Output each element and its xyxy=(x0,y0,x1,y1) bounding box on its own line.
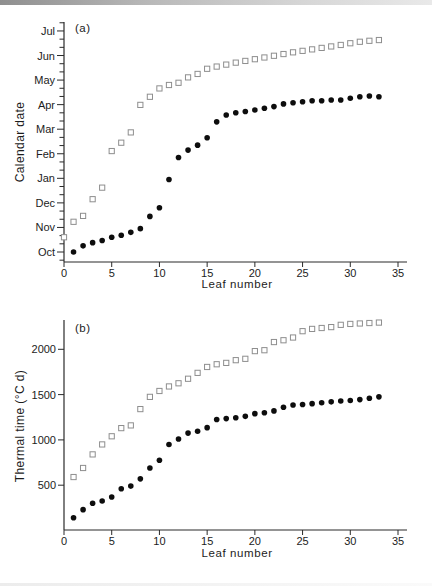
x-tick-label-b: 10 xyxy=(153,535,165,547)
filled-circle-marker-b xyxy=(138,476,144,482)
open-square-marker-b xyxy=(224,360,229,365)
x-tick-label-b: 30 xyxy=(344,535,356,547)
filled-circle-marker-a xyxy=(195,142,201,148)
thermal-tick-label: 1500 xyxy=(32,389,56,401)
filled-circle-marker-a xyxy=(262,106,268,112)
filled-circle-marker-a xyxy=(271,104,277,110)
open-square-marker-b xyxy=(271,339,276,344)
x-tick-label-b: 35 xyxy=(392,535,404,547)
open-square-marker-b xyxy=(376,320,381,325)
open-square-marker-b xyxy=(214,362,219,367)
thermal-tick-label: 2000 xyxy=(32,343,56,355)
open-square-marker-a xyxy=(290,50,295,55)
filled-circle-marker-a xyxy=(109,234,115,240)
open-square-marker-b xyxy=(176,381,181,386)
filled-circle-marker-a xyxy=(176,155,182,161)
month-tick-label: Nov xyxy=(35,221,55,233)
filled-circle-marker-b xyxy=(176,436,182,442)
panel-a-x-axis-title: Leaf number xyxy=(176,278,298,290)
filled-circle-marker-a xyxy=(243,109,249,115)
filled-circle-marker-a xyxy=(338,97,344,103)
figure-page: 05101520253035OctNovDecJanFebMarAprMayJu… xyxy=(0,0,432,586)
filled-circle-marker-b xyxy=(204,425,210,431)
filled-circle-marker-b xyxy=(214,417,220,423)
x-tick-label-b: 0 xyxy=(61,535,67,547)
filled-circle-marker-b xyxy=(243,414,249,420)
open-square-marker-a xyxy=(357,39,362,44)
x-tick-label-a: 5 xyxy=(109,267,115,279)
filled-circle-marker-a xyxy=(90,240,96,246)
filled-circle-marker-b xyxy=(338,398,344,404)
filled-circle-marker-b xyxy=(185,430,191,436)
filled-circle-marker-a xyxy=(214,119,220,125)
open-square-marker-b xyxy=(195,370,200,375)
open-square-marker-a xyxy=(319,45,324,50)
open-square-marker-b xyxy=(157,388,162,393)
open-square-marker-b xyxy=(90,452,95,457)
filled-circle-marker-a xyxy=(99,238,105,244)
month-tick-label: Mar xyxy=(36,123,55,135)
filled-circle-marker-a xyxy=(367,93,373,99)
filled-circle-marker-b xyxy=(195,428,201,434)
x-tick-label-a: 30 xyxy=(344,267,356,279)
open-square-marker-b xyxy=(243,356,248,361)
thermal-tick-label: 1000 xyxy=(32,434,56,446)
open-square-marker-b xyxy=(128,423,133,428)
open-square-marker-a xyxy=(80,213,85,218)
open-square-marker-a xyxy=(262,55,267,60)
month-tick-label: Jul xyxy=(41,25,55,37)
open-square-marker-a xyxy=(157,86,162,91)
panel-a-label: (a) xyxy=(75,22,91,34)
filled-circle-marker-a xyxy=(147,214,153,220)
open-square-marker-a xyxy=(205,66,210,71)
x-tick-label-b: 20 xyxy=(249,535,261,547)
filled-circle-marker-a xyxy=(281,101,287,107)
open-square-marker-b xyxy=(100,442,105,447)
open-square-marker-a xyxy=(348,41,353,46)
month-tick-label: Jun xyxy=(37,50,55,62)
filled-circle-marker-a xyxy=(138,226,144,232)
open-square-marker-a xyxy=(271,53,276,58)
filled-circle-marker-a xyxy=(204,135,210,141)
filled-circle-marker-b xyxy=(128,483,134,489)
open-square-marker-a xyxy=(61,235,66,240)
open-square-marker-a xyxy=(195,71,200,76)
x-tick-label-b: 25 xyxy=(296,535,308,547)
open-square-marker-a xyxy=(281,51,286,56)
month-tick-label: May xyxy=(34,74,55,86)
open-square-marker-b xyxy=(290,335,295,340)
filled-circle-marker-b xyxy=(367,395,373,401)
open-square-marker-a xyxy=(71,219,76,224)
open-square-marker-a xyxy=(147,94,152,99)
open-square-marker-b xyxy=(166,384,171,389)
filled-circle-marker-b xyxy=(223,416,229,422)
open-square-marker-b xyxy=(357,321,362,326)
open-square-marker-a xyxy=(310,47,315,52)
filled-circle-marker-a xyxy=(128,230,134,236)
filled-circle-marker-a xyxy=(185,147,191,153)
filled-circle-marker-a xyxy=(347,95,353,101)
filled-circle-marker-a xyxy=(252,107,258,113)
month-tick-label: Dec xyxy=(35,197,55,209)
open-square-marker-b xyxy=(119,426,124,431)
month-tick-label: Jan xyxy=(37,172,55,184)
open-square-marker-a xyxy=(100,185,105,190)
open-square-marker-b xyxy=(71,474,76,479)
open-square-marker-a xyxy=(185,75,190,80)
filled-circle-marker-a xyxy=(328,97,334,103)
thermal-tick-label: 500 xyxy=(38,479,56,491)
open-square-marker-a xyxy=(224,62,229,67)
open-square-marker-a xyxy=(243,58,248,63)
open-square-marker-a xyxy=(176,80,181,85)
x-tick-label-a: 25 xyxy=(296,267,308,279)
filled-circle-marker-a xyxy=(300,99,306,105)
filled-circle-marker-b xyxy=(80,507,86,513)
filled-circle-marker-a xyxy=(233,110,239,116)
x-tick-label-a: 10 xyxy=(153,267,165,279)
open-square-marker-a xyxy=(214,64,219,69)
filled-circle-marker-a xyxy=(223,112,229,118)
filled-circle-marker-b xyxy=(233,415,239,421)
open-square-marker-b xyxy=(319,325,324,330)
open-square-marker-a xyxy=(252,57,257,62)
open-square-marker-b xyxy=(205,364,210,369)
